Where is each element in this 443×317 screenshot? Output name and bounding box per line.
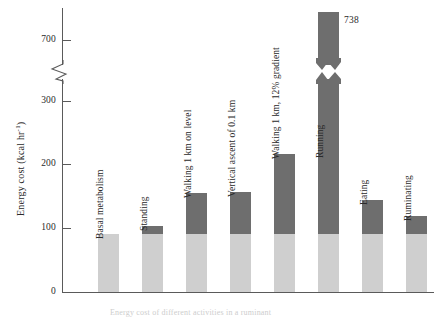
y-axis-title-text: Energy cost (kcal hr <box>15 131 26 216</box>
bar-label-vertical-ascent: Vertical ascent of 0.1 km <box>227 100 237 197</box>
y-tick-200 <box>63 164 71 165</box>
bar-label-eating: Eating <box>359 180 369 205</box>
figure-caption: Energy cost of different activities in a… <box>110 308 271 317</box>
bar-base-segment <box>230 234 251 292</box>
bar-label-walking-12pct-gradient: Walking 1 km, 12% gradient <box>271 47 281 159</box>
y-axis-title-paren: ) <box>15 122 26 126</box>
bar-increment-segment <box>230 192 251 234</box>
bar-standing <box>142 226 163 292</box>
y-axis-line-lower <box>62 79 63 292</box>
bar-increment-segment <box>362 200 383 234</box>
y-tick-label-200: 200 <box>26 158 56 168</box>
y-tick-label-100: 100 <box>26 222 56 232</box>
y-axis-title: Energy cost (kcal hr-1) <box>14 122 26 216</box>
bar-label-ruminating: Ruminating <box>403 175 413 221</box>
bar-basal-metabolism <box>98 234 119 292</box>
bar-label-standing: Standing <box>139 196 149 231</box>
y-tick-label-300: 300 <box>26 95 56 105</box>
y-tick-label-0: 0 <box>26 286 56 296</box>
y-tick-300 <box>63 101 71 102</box>
y-axis-break-icon <box>50 60 76 84</box>
bar-base-segment <box>98 234 119 292</box>
y-axis-title-exponent: -1 <box>14 125 22 131</box>
bar-increment-segment <box>318 12 339 65</box>
bar-eating <box>362 200 383 292</box>
bar-walking-12pct-gradient <box>274 154 295 292</box>
bar-base-segment <box>142 234 163 292</box>
bar-running-upper <box>318 12 339 65</box>
bar-walking-1km-level <box>186 193 207 292</box>
y-tick-label-700: 700 <box>26 34 56 44</box>
bar-value-label-running: 738 <box>344 15 359 25</box>
x-axis-line <box>62 292 434 293</box>
bar-label-walking-1km-level: Walking 1 km on level <box>183 110 193 198</box>
bar-base-segment <box>318 234 339 292</box>
bar-label-basal-metabolism: Basal metabolism <box>95 170 105 239</box>
bar-base-segment <box>186 234 207 292</box>
y-axis-line-upper <box>62 8 63 65</box>
y-tick-700 <box>63 40 71 41</box>
y-tick-100 <box>63 228 71 229</box>
bar-running-lower <box>318 79 339 292</box>
bar-base-segment <box>362 234 383 292</box>
bar-base-segment <box>406 234 427 292</box>
bar-base-segment <box>274 234 295 292</box>
bar-increment-segment <box>186 193 207 234</box>
bar-ruminating <box>406 216 427 292</box>
bar-increment-segment <box>274 154 295 234</box>
energy-cost-bar-chart: 700 300 200 100 0 Energy cost (kcal hr-1… <box>0 0 443 317</box>
bar-vertical-ascent <box>230 192 251 292</box>
bar-label-running: Running <box>315 125 325 158</box>
